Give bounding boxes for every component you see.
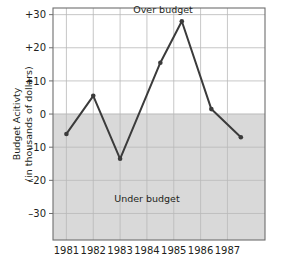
y-axis-title-line1: Budget Acitivty	[11, 87, 22, 160]
svg-text:1982: 1982	[81, 245, 106, 256]
svg-text:1985: 1985	[161, 245, 186, 256]
svg-text:1984: 1984	[134, 245, 159, 256]
under-budget-shaded-region	[53, 114, 265, 240]
y-axis-title-line2: (in thousands of dollars)	[23, 66, 34, 181]
chart-svg: +30+20+100–10–20–30 19811982198319841985…	[0, 0, 286, 262]
over-budget-label: Over budget	[133, 4, 193, 15]
svg-text:1986: 1986	[188, 245, 213, 256]
svg-text:0: 0	[40, 109, 46, 120]
svg-text:+30: +30	[25, 9, 46, 20]
svg-text:+20: +20	[25, 42, 46, 53]
svg-text:1987: 1987	[215, 245, 240, 256]
under-budget-label: Under budget	[114, 193, 180, 204]
budget-activity-line-chart: +30+20+100–10–20–30 19811982198319841985…	[0, 0, 286, 262]
svg-text:–30: –30	[28, 208, 46, 219]
svg-text:1983: 1983	[107, 245, 132, 256]
svg-text:1981: 1981	[54, 245, 79, 256]
x-axis-tick-labels: 1981198219831984198519861987	[54, 245, 240, 256]
y-axis-title: Budget Acitivty (in thousands of dollars…	[11, 66, 34, 181]
